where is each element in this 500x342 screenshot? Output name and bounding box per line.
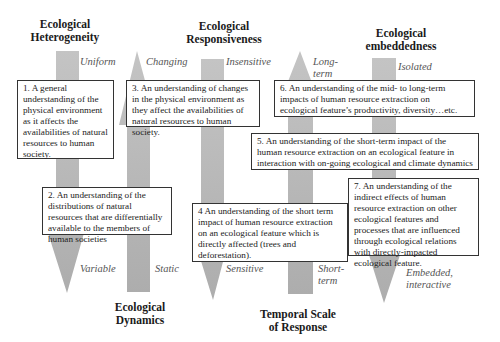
pole-uniform: Uniform [80, 56, 116, 68]
box-7: 7. An understanding of the indirect effe… [348, 178, 479, 256]
pole-isolated: Isolated [398, 61, 432, 73]
heading-line: Heterogeneity [20, 31, 110, 44]
heading-line: of Response [253, 321, 343, 334]
pole-line: term [318, 275, 344, 287]
heading-temporal-scale-of-response: Temporal Scale of Response [253, 308, 343, 334]
heading-line: embeddedness [355, 40, 447, 53]
heading-line: Temporal Scale [253, 308, 343, 321]
heading-line: Responsiveness [176, 33, 272, 46]
heading-ecological-embeddedness: Ecological embeddedness [355, 27, 447, 53]
pole-embedded-interactive: Embedded, interactive [406, 267, 453, 291]
pole-short-term: Short- term [318, 263, 344, 287]
pole-sensitive: Sensitive [226, 263, 263, 275]
heading-line: Ecological [20, 18, 110, 31]
pole-changing: Changing [146, 56, 187, 68]
box-6: 6. An understanding of the mid- to long-… [274, 80, 475, 117]
pole-line: Long- [313, 56, 338, 68]
heading-line: Dynamics [100, 314, 180, 327]
box-3: 3. An understanding of changes in the ph… [126, 80, 260, 127]
box-4: 4 An understanding of the short term imp… [192, 203, 348, 262]
heading-ecological-heterogeneity: Ecological Heterogeneity [20, 18, 110, 44]
pole-static: Static [155, 263, 179, 275]
heading-line: Ecological [100, 301, 180, 314]
heading-line: Ecological [355, 27, 447, 40]
box-2: 2. An understanding of the distributions… [42, 187, 172, 235]
pole-insensitive: Insensitive [226, 56, 271, 68]
heading-line: Ecological [176, 20, 272, 33]
box-1: 1. A general understanding of the physic… [17, 80, 114, 159]
heading-ecological-responsiveness: Ecological Responsiveness [176, 20, 272, 46]
box-5: 5. An understanding of the short-term im… [251, 133, 479, 170]
pole-line: term [313, 68, 338, 80]
heading-ecological-dynamics: Ecological Dynamics [100, 301, 180, 327]
pole-long-term: Long- term [313, 56, 338, 80]
pole-line: Short- [318, 263, 344, 275]
pole-line: interactive [406, 279, 453, 291]
pole-variable: Variable [80, 263, 116, 275]
